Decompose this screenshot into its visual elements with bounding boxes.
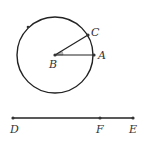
point-on-circle <box>27 26 30 29</box>
point-c <box>86 33 89 36</box>
label-b: B <box>48 58 57 71</box>
label-f: F <box>95 123 104 136</box>
label-d: D <box>9 123 19 136</box>
point-a <box>92 53 95 56</box>
point-d <box>11 116 14 119</box>
point-f <box>98 116 101 119</box>
segment-bc <box>55 35 88 55</box>
point-e <box>131 116 134 119</box>
label-a: A <box>97 49 106 62</box>
label-e: E <box>128 123 137 136</box>
point-b <box>53 53 56 56</box>
geometry-figure: A B C D F E <box>0 0 149 144</box>
label-c: C <box>91 26 100 39</box>
